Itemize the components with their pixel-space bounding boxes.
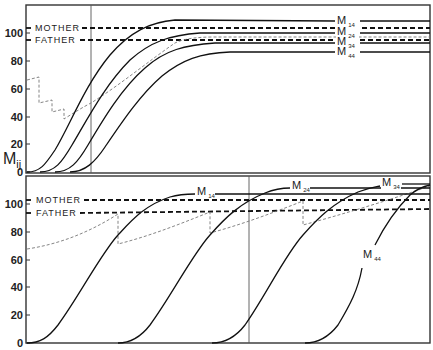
bottom-tick-20: 20: [11, 309, 23, 321]
top-tick-20: 20: [11, 138, 23, 150]
top-panel: 0 20 40 60 80 100 Mij MOTHER FATHER M14 …: [3, 5, 430, 178]
top-tick-80: 80: [11, 55, 23, 67]
bottom-tick-40: 40: [11, 281, 23, 293]
y-axis-label: Mij: [3, 150, 21, 170]
bottom-tick-60: 60: [11, 254, 23, 266]
top-gray-dashed-series: [27, 37, 430, 119]
top-curve-m44: [70, 52, 335, 172]
chart-canvas: 0 20 40 60 80 100 Mij MOTHER FATHER M14 …: [0, 0, 433, 350]
top-father-label: FATHER: [35, 35, 76, 45]
bottom-label-m44: M44: [363, 248, 382, 262]
top-curve-m34: [55, 43, 335, 172]
bottom-panel: 0 20 40 60 80 100 MOTHER FATHER M14 M24 …: [5, 176, 430, 349]
top-tick-100: 100: [5, 27, 23, 39]
top-tick-60: 60: [11, 83, 23, 95]
top-mother-label: MOTHER: [35, 23, 80, 33]
bottom-father-label: FATHER: [36, 208, 77, 218]
bottom-gray-dashed-series: [27, 186, 430, 249]
bottom-mother-label: MOTHER: [36, 195, 81, 205]
bottom-tick-80: 80: [11, 226, 23, 238]
bottom-father-line: [80, 209, 430, 213]
bottom-curve-m44: [305, 268, 362, 343]
top-tick-40: 40: [11, 111, 23, 123]
bottom-tick-0: 0: [17, 337, 23, 349]
bottom-tick-100: 100: [5, 198, 23, 210]
